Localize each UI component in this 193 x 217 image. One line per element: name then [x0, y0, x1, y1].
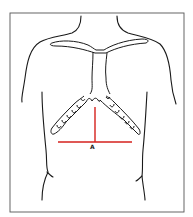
- marker-label: A: [90, 143, 95, 150]
- clavicles: [50, 39, 148, 53]
- sternum: [90, 52, 110, 94]
- torso-illustration: [0, 0, 193, 217]
- diagram-canvas: A: [0, 0, 193, 217]
- measurement-marker: [58, 107, 132, 142]
- torso-outline: [22, 16, 176, 200]
